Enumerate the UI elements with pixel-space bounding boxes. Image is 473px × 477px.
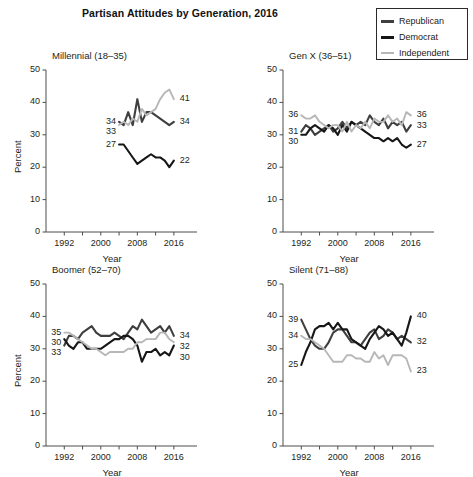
start-value-label-independent-boomer: 35: [45, 327, 61, 337]
start-value-label-democrat-boomer: 30: [45, 337, 61, 347]
start-value-label-republican-millennial: 34: [100, 116, 116, 126]
end-value-label-democrat-millennial: 22: [180, 155, 198, 165]
y-axis-label-boomer: Percent: [12, 354, 23, 387]
y-tick-label-silent: 10: [253, 408, 277, 418]
start-value-label-democrat-silent: 25: [282, 359, 298, 369]
legend-swatch-democrat: [381, 36, 394, 39]
plot-area-boomer: [0, 262, 236, 467]
x-tick-label-boomer: 2016: [160, 452, 188, 462]
y-tick-label-silent: 50: [253, 278, 277, 288]
series-line-independent-millennial: [119, 89, 174, 125]
legend-item-republican: Republican: [381, 13, 464, 29]
x-tick-label-genx: 2000: [324, 238, 352, 248]
series-line-republican-millennial: [119, 99, 174, 125]
y-tick-label-boomer: 40: [16, 310, 40, 320]
end-value-label-republican-silent: 32: [417, 336, 435, 346]
y-tick-label-genx: 10: [253, 194, 277, 204]
x-tick-label-genx: 1992: [287, 238, 315, 248]
y-tick-label-boomer: 10: [16, 408, 40, 418]
start-value-label-democrat-genx: 30: [282, 136, 298, 146]
panel-boomer: Boomer (52–70)01020304050199220002008201…: [0, 262, 236, 472]
start-value-label-independent-millennial: 33: [100, 126, 116, 136]
y-tick-label-genx: 40: [253, 96, 277, 106]
y-tick-label-boomer: 50: [16, 278, 40, 288]
end-value-label-republican-millennial: 34: [180, 116, 198, 126]
x-tick-label-boomer: 1992: [50, 452, 78, 462]
y-tick-label-boomer: 0: [16, 440, 40, 450]
x-tick-label-silent: 2016: [397, 452, 425, 462]
end-value-label-republican-boomer: 34: [180, 330, 198, 340]
x-tick-label-silent: 2000: [324, 452, 352, 462]
y-tick-label-millennial: 30: [16, 129, 40, 139]
end-value-label-independent-boomer: 32: [180, 341, 198, 351]
x-axis-label-silent: Year: [340, 467, 359, 477]
end-value-label-independent-silent: 23: [417, 365, 435, 375]
start-value-label-republican-silent: 39: [282, 314, 298, 324]
y-tick-label-silent: 0: [253, 440, 277, 450]
x-tick-label-millennial: 2000: [87, 238, 115, 248]
x-tick-label-millennial: 1992: [50, 238, 78, 248]
start-value-label-independent-silent: 34: [282, 330, 298, 340]
y-tick-label-millennial: 10: [16, 194, 40, 204]
series-line-democrat-millennial: [119, 145, 174, 168]
plot-area-genx: [237, 48, 473, 253]
y-tick-label-millennial: 50: [16, 64, 40, 74]
plot-area-silent: [237, 262, 473, 467]
y-tick-label-genx: 0: [253, 226, 277, 236]
y-tick-label-genx: 30: [253, 129, 277, 139]
end-value-label-independent-genx: 36: [417, 109, 435, 119]
start-value-label-democrat-millennial: 27: [100, 139, 116, 149]
end-value-label-democrat-genx: 27: [417, 139, 435, 149]
end-value-label-independent-millennial: 41: [180, 93, 198, 103]
legend-label-republican: Republican: [399, 16, 444, 26]
x-tick-label-millennial: 2016: [160, 238, 188, 248]
y-tick-label-silent: 40: [253, 310, 277, 320]
x-axis-label-boomer: Year: [103, 467, 122, 477]
x-tick-label-silent: 1992: [287, 452, 315, 462]
y-tick-label-silent: 30: [253, 343, 277, 353]
y-tick-label-millennial: 40: [16, 96, 40, 106]
end-value-label-democrat-boomer: 30: [180, 352, 198, 362]
panel-silent: Silent (71–88)01020304050199220002008201…: [237, 262, 473, 472]
page-title: Partisan Attitudes by Generation, 2016: [0, 7, 360, 19]
end-value-label-democrat-silent: 40: [417, 310, 435, 320]
x-tick-label-boomer: 2000: [87, 452, 115, 462]
series-line-independent-genx: [301, 112, 411, 131]
panel-millennial: Millennial (18–35)0102030405019922000200…: [0, 48, 236, 253]
y-tick-label-genx: 50: [253, 64, 277, 74]
y-tick-label-boomer: 30: [16, 343, 40, 353]
legend-swatch-republican: [381, 20, 394, 23]
y-axis-label-millennial: Percent: [12, 140, 23, 173]
end-value-label-republican-genx: 33: [417, 120, 435, 130]
start-value-label-republican-genx: 31: [282, 126, 298, 136]
x-tick-label-millennial: 2008: [123, 238, 151, 248]
y-tick-label-genx: 20: [253, 161, 277, 171]
start-value-label-independent-genx: 36: [282, 109, 298, 119]
legend-item-democrat: Democrat: [381, 29, 464, 45]
chart-figure: Partisan Attitudes by Generation, 2016 R…: [0, 0, 473, 477]
series-line-democrat-boomer: [64, 336, 174, 362]
y-tick-label-millennial: 0: [16, 226, 40, 236]
y-tick-label-silent: 20: [253, 375, 277, 385]
legend-label-democrat: Democrat: [399, 32, 438, 42]
start-value-label-republican-boomer: 33: [45, 347, 61, 357]
panel-genx: Gen X (36–51)010203040501992200020082016…: [237, 48, 473, 253]
x-tick-label-boomer: 2008: [123, 452, 151, 462]
x-tick-label-genx: 2016: [397, 238, 425, 248]
plot-area-millennial: [0, 48, 236, 253]
x-tick-label-genx: 2008: [360, 238, 388, 248]
x-tick-label-silent: 2008: [360, 452, 388, 462]
